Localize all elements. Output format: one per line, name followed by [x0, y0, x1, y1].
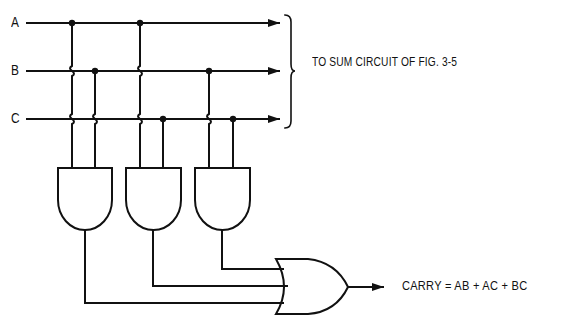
carry-equation: CARRY = AB + AC + BC: [402, 278, 527, 293]
junction-dot-a1: [69, 20, 75, 26]
wire-and2-to-or: [153, 230, 287, 286]
input-label-b: B: [11, 62, 19, 78]
junction-dot-c2: [230, 116, 236, 122]
junction-dot-a2: [137, 20, 143, 26]
bus-destination-note: TO SUM CIRCUIT OF FIG. 3-5: [312, 55, 457, 69]
junction-dot-b1: [92, 68, 98, 74]
junction-dot-c1: [160, 116, 166, 122]
bus-brace: [285, 15, 295, 128]
wire-and1-to-or: [85, 230, 283, 303]
wire-a-to-and2: [138, 23, 142, 168]
wire-a-to-and1: [70, 23, 74, 168]
junction-dot-b2: [206, 68, 212, 74]
and-gate-1: [58, 168, 112, 230]
and-gate-3: [195, 168, 250, 230]
and-gate-2: [126, 168, 181, 230]
input-label-c: C: [11, 110, 20, 126]
input-label-a: A: [11, 14, 19, 30]
wire-and3-to-or: [222, 230, 283, 269]
